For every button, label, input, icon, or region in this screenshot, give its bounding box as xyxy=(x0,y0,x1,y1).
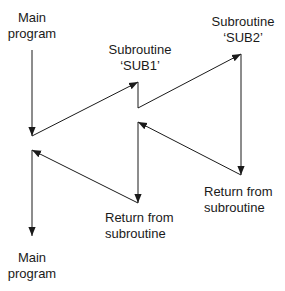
main-program-bottom-line1: Main xyxy=(6,250,58,266)
return-sub2-line2: subroutine xyxy=(204,200,280,216)
sub2-label: Subroutine ‘SUB2’ xyxy=(207,14,279,46)
sub1-line2: ‘SUB1’ xyxy=(104,58,176,74)
main-program-top-label: Main program xyxy=(6,10,58,42)
return-sub1-line2: subroutine xyxy=(105,226,181,242)
sub1-label: Subroutine ‘SUB1’ xyxy=(104,42,176,74)
main-program-top-line1: Main xyxy=(6,10,58,26)
return-sub2-line1: Return from xyxy=(204,184,280,200)
return-to-sub1-arrow xyxy=(138,122,241,175)
return-from-sub2-label: Return from subroutine xyxy=(204,184,280,216)
main-program-top-line2: program xyxy=(6,26,58,42)
sub2-line1: Subroutine xyxy=(207,14,279,30)
main-program-bottom-label: Main program xyxy=(6,250,58,282)
return-from-sub1-label: Return from subroutine xyxy=(105,210,181,242)
sub2-line2: ‘SUB2’ xyxy=(207,30,279,46)
call-sub1-arrow xyxy=(32,82,138,136)
return-sub1-line1: Return from xyxy=(105,210,181,226)
main-program-bottom-line2: program xyxy=(6,266,58,282)
sub1-line1: Subroutine xyxy=(104,42,176,58)
return-to-main-arrow xyxy=(32,150,138,203)
